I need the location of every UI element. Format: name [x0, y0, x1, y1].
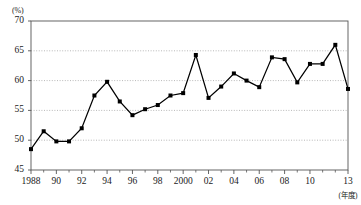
x-axis-tick-label: 13: [343, 176, 353, 186]
data-point-marker: [257, 85, 261, 89]
y-axis-tick-label: 55: [4, 104, 24, 114]
plot-frame: [31, 21, 348, 170]
data-point-marker: [118, 99, 122, 103]
data-point-marker: [270, 55, 274, 59]
x-axis-tick-label: 96: [128, 176, 138, 186]
data-point-marker: [245, 79, 249, 83]
data-point-marker: [194, 53, 198, 57]
data-point-marker: [207, 96, 211, 100]
x-axis-tick-label: 04: [229, 176, 239, 186]
line-chart-plot: [0, 0, 361, 205]
x-axis-tick-label: 90: [52, 176, 62, 186]
data-point-marker: [143, 107, 147, 111]
data-point-marker: [42, 129, 46, 133]
x-axis-tick-label: 06: [254, 176, 264, 186]
data-point-marker: [333, 43, 337, 47]
x-axis-tick-label: 02: [204, 176, 214, 186]
x-axis-tick-label: 1988: [22, 176, 41, 186]
x-axis-tick-label: 10: [305, 176, 315, 186]
data-point-marker: [105, 80, 109, 84]
y-axis-tick-label: 50: [4, 134, 24, 144]
y-axis-tick-label: 70: [4, 15, 24, 25]
data-point-marker: [346, 87, 350, 91]
data-series-line: [31, 45, 348, 149]
x-axis-tick-label: 98: [153, 176, 163, 186]
data-point-marker: [156, 103, 160, 107]
x-axis-tick-label: 2000: [174, 176, 193, 186]
y-axis-tick-label: 45: [4, 164, 24, 174]
data-point-marker: [80, 126, 84, 130]
x-axis-tick-label: 94: [102, 176, 112, 186]
data-point-marker: [67, 139, 71, 143]
x-axis-tick-label: 92: [77, 176, 87, 186]
data-point-marker: [283, 57, 287, 61]
data-point-marker: [29, 147, 33, 151]
data-point-marker: [295, 80, 299, 84]
data-point-marker: [92, 94, 96, 98]
data-point-marker: [168, 94, 172, 98]
data-point-marker: [219, 85, 223, 89]
data-point-marker: [181, 91, 185, 95]
data-point-marker: [232, 71, 236, 75]
data-point-marker: [308, 62, 312, 66]
data-point-marker: [54, 139, 58, 143]
data-point-marker: [321, 62, 325, 66]
x-axis-tick-label: 08: [280, 176, 290, 186]
y-axis-tick-label: 60: [4, 75, 24, 85]
chart-figure: (%) 455055606570 19889092949698200002040…: [0, 0, 361, 205]
y-axis-tick-label: 65: [4, 45, 24, 55]
x-axis-unit-label: (年度): [339, 189, 358, 200]
data-point-marker: [130, 113, 134, 117]
